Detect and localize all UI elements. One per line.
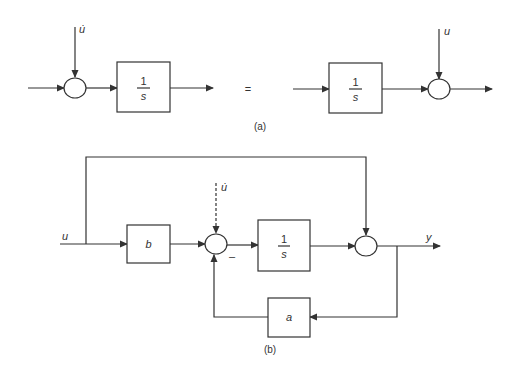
integrator-denominator: s <box>141 90 147 102</box>
part-a-right: 1 s u <box>293 25 492 113</box>
part-b: u b u̇ – 1 s y a <box>60 157 440 337</box>
integrator-numerator: 1 <box>140 75 146 87</box>
input-label: u <box>62 230 68 242</box>
caption-a: (a) <box>254 121 266 132</box>
integrator-numerator: 1 <box>281 233 287 245</box>
summing-junction-2 <box>355 236 377 256</box>
part-a-left: u̇ 1 s <box>28 23 213 112</box>
minus-sign: – <box>229 250 236 262</box>
equals-sign: = <box>245 83 251 95</box>
summing-junction-1 <box>205 234 227 254</box>
integrator-denominator: s <box>281 248 287 260</box>
gain-a-label: a <box>286 311 292 323</box>
summing-junction <box>428 79 450 99</box>
caption-b: (b) <box>264 344 276 355</box>
output-label: y <box>425 231 433 243</box>
block-diagram: u̇ 1 s = 1 s u (a) u b u̇ – <box>0 0 515 370</box>
integrator-block <box>329 63 382 113</box>
disturbance-label: u̇ <box>79 23 85 35</box>
integrator-block <box>117 62 170 112</box>
feedback-path-to-a <box>310 246 397 317</box>
disturbance-label: u <box>444 25 450 37</box>
dashed-input-label: u̇ <box>221 181 227 193</box>
integrator-denominator: s <box>353 91 359 103</box>
summing-junction <box>64 78 86 98</box>
integrator-numerator: 1 <box>352 76 358 88</box>
gain-b-label: b <box>145 238 151 250</box>
